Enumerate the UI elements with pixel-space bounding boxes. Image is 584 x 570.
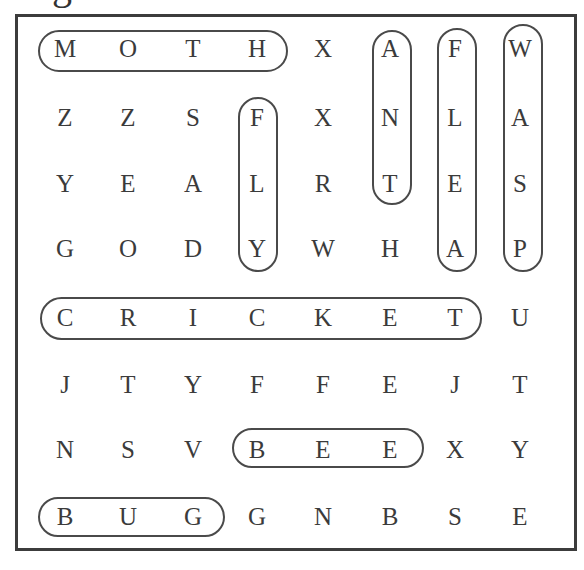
grid-cell: W <box>500 29 540 69</box>
grid-cell: A <box>370 29 410 69</box>
grid-cell: Y <box>173 365 213 405</box>
grid-cell: G <box>173 497 213 537</box>
grid-cell: S <box>500 164 540 204</box>
grid-cell: Y <box>45 164 85 204</box>
grid-cell: G <box>237 497 277 537</box>
grid-cell: E <box>370 365 410 405</box>
grid-cell: Y <box>500 430 540 470</box>
word-search-board <box>15 14 577 551</box>
grid-cell: M <box>45 29 85 69</box>
grid-cell: Z <box>45 98 85 138</box>
grid-cell: N <box>370 98 410 138</box>
grid-cell: O <box>108 29 148 69</box>
grid-cell: B <box>237 430 277 470</box>
grid-cell: S <box>435 497 475 537</box>
grid-cell: W <box>303 229 343 269</box>
grid-cell: F <box>435 29 475 69</box>
grid-cell: K <box>303 298 343 338</box>
grid-cell: R <box>303 164 343 204</box>
grid-cell: T <box>370 164 410 204</box>
grid-cell: L <box>237 164 277 204</box>
grid-cell: H <box>237 29 277 69</box>
grid-cell: J <box>45 365 85 405</box>
grid-cell: E <box>435 164 475 204</box>
grid-cell: A <box>173 164 213 204</box>
grid-cell: U <box>108 497 148 537</box>
grid-cell: F <box>237 365 277 405</box>
grid-cell: B <box>370 497 410 537</box>
grid-cell: G <box>45 229 85 269</box>
grid-cell: V <box>173 430 213 470</box>
grid-cell: A <box>500 98 540 138</box>
grid-cell: F <box>237 98 277 138</box>
grid-cell: S <box>173 98 213 138</box>
grid-cell: E <box>108 164 148 204</box>
title-fragment: g <box>52 0 72 6</box>
grid-cell: T <box>108 365 148 405</box>
grid-cell: U <box>500 298 540 338</box>
grid-cell: X <box>435 430 475 470</box>
grid-cell: E <box>500 497 540 537</box>
grid-cell: T <box>500 365 540 405</box>
grid-cell: Y <box>237 229 277 269</box>
grid-cell: I <box>173 298 213 338</box>
grid-cell: Z <box>108 98 148 138</box>
grid-cell: E <box>370 298 410 338</box>
grid-cell: F <box>303 365 343 405</box>
grid-cell: L <box>435 98 475 138</box>
grid-cell: D <box>173 229 213 269</box>
grid-cell: E <box>303 430 343 470</box>
grid-cell: N <box>45 430 85 470</box>
grid-cell: E <box>370 430 410 470</box>
grid-cell: R <box>108 298 148 338</box>
grid-cell: X <box>303 29 343 69</box>
grid-cell: O <box>108 229 148 269</box>
grid-cell: T <box>173 29 213 69</box>
grid-cell: C <box>45 298 85 338</box>
grid-cell: T <box>435 298 475 338</box>
grid-cell: C <box>237 298 277 338</box>
grid-cell: H <box>370 229 410 269</box>
grid-cell: P <box>500 229 540 269</box>
grid-cell: N <box>303 497 343 537</box>
grid-cell: S <box>108 430 148 470</box>
grid-cell: B <box>45 497 85 537</box>
grid-cell: X <box>303 98 343 138</box>
grid-cell: A <box>435 229 475 269</box>
grid-cell: J <box>435 365 475 405</box>
